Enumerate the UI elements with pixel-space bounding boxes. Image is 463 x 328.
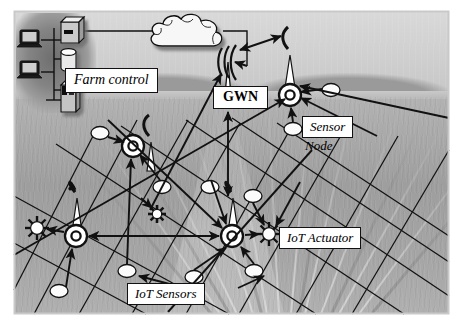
ellipse-sensor-icon [201,181,219,194]
computer-monitor-icon [17,61,42,78]
ellipse-sensor-icon [91,127,109,140]
label-farm-control: Farm control [65,68,158,93]
server-box-icon [61,17,84,43]
ellipse-sensor-icon [118,265,136,278]
starburst-actuator-icon [257,222,281,246]
label-iot-sensors: IoT Sensors [127,283,205,305]
diagram-overlay [0,0,463,328]
label-gateway: GWN [213,86,268,109]
ellipse-sensor-icon [284,123,302,136]
ellipse-sensor-icon [244,190,262,203]
label-node: Node [305,138,332,154]
label-sensor: Sensor [302,116,353,138]
sensor-node-right [279,27,301,106]
cloud-icon [151,14,222,46]
computer-monitor-icon [17,30,42,47]
sensor-node-bottomcenter [221,182,243,247]
figure-canvas: Farm control GWN Sensor Node IoT Actuato… [0,0,463,328]
ellipse-sensor-icon [245,265,263,278]
sensor-mote-group [50,84,340,298]
label-iot-actuator: IoT Actuator [279,227,361,249]
sensor-node-midleft [122,115,155,171]
